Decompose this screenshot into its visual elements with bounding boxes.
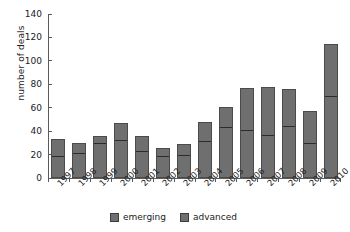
legend-swatch-icon	[180, 213, 189, 222]
bar-segment-advanced-2007	[262, 88, 274, 138]
legend-item-advanced[interactable]: advanced	[180, 212, 237, 222]
chart-legend: emergingadvanced	[0, 212, 347, 222]
y-axis-tick-label: 20	[6, 150, 48, 160]
y-axis-tick-label: 100	[6, 56, 48, 66]
y-axis-tick-label: 140	[6, 9, 48, 19]
bar-2010[interactable]	[324, 44, 338, 178]
legend-label: emerging	[123, 212, 166, 222]
y-axis-tick-label: 120	[6, 32, 48, 42]
y-axis-tick-label: 0	[6, 173, 48, 183]
bar-2005[interactable]	[219, 107, 233, 178]
legend-swatch-icon	[110, 213, 119, 222]
bar-segment-advanced-2010	[325, 45, 337, 99]
bar-2006[interactable]	[240, 88, 254, 178]
legend-label: advanced	[193, 212, 237, 222]
bar-2008[interactable]	[282, 89, 296, 178]
y-axis-tick-label: 60	[6, 103, 48, 113]
bar-2009[interactable]	[303, 111, 317, 178]
bar-segment-advanced-2009	[304, 112, 316, 146]
y-axis-tick-label: 80	[6, 79, 48, 89]
bar-segment-advanced-2006	[241, 89, 253, 134]
plot-area: 020406080100120140	[48, 14, 341, 178]
y-axis-tick-label: 40	[6, 126, 48, 136]
bar-segment-advanced-2008	[283, 90, 295, 129]
bar-segment-emerging-2010	[325, 96, 337, 177]
x-axis-labels: 1997199819992000200120022003200420052006…	[48, 179, 341, 211]
bar-2007[interactable]	[261, 87, 275, 178]
bar-series-group	[48, 14, 341, 178]
legend-item-emerging[interactable]: emerging	[110, 212, 166, 222]
